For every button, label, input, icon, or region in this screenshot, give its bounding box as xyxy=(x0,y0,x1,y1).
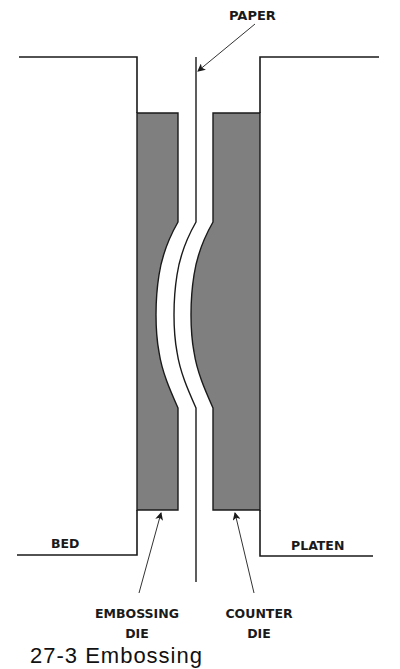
figure-caption: 27-3 Embossing xyxy=(30,643,400,669)
embossing-die-arrow xyxy=(139,513,161,593)
paper-arrow xyxy=(198,24,255,71)
counter-die-label-line1: COUNTER xyxy=(225,606,292,621)
bed-label: BED xyxy=(51,536,79,551)
paper-label: PAPER xyxy=(229,8,276,23)
counter-die-arrow xyxy=(235,513,254,593)
bed-outline xyxy=(17,57,137,555)
platen-outline xyxy=(260,57,379,556)
counter-die-label-line2: DIE xyxy=(247,626,271,641)
platen-label: PLATEN xyxy=(291,538,344,553)
embossing-die-label-line2: DIE xyxy=(125,626,149,641)
embossing-die xyxy=(137,113,178,510)
embossing-die-label-line1: EMBOSSING xyxy=(95,606,179,621)
counter-die xyxy=(191,113,260,510)
